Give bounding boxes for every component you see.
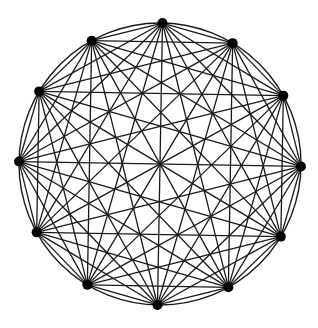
- edge-0-5: [162, 23, 228, 287]
- edge-5-6: [158, 287, 229, 305]
- vertex-9: [14, 157, 24, 167]
- vertex-1: [228, 38, 238, 48]
- complete-graph-diagram: [0, 0, 318, 328]
- vertex-8: [32, 227, 42, 237]
- vertex-0: [157, 18, 167, 28]
- vertex-11: [87, 36, 97, 46]
- vertex-4: [276, 232, 286, 242]
- edge-0-11: [92, 23, 163, 41]
- vertex-7: [82, 280, 92, 290]
- edge-6-11: [92, 41, 158, 305]
- edge-8-9: [19, 162, 37, 233]
- edge-3-8: [37, 166, 301, 232]
- edge-2-9: [19, 96, 283, 162]
- vertex-10: [34, 86, 44, 96]
- vertex-6: [153, 300, 163, 310]
- edges-group: [19, 23, 301, 305]
- edge-7-10: [39, 91, 87, 284]
- vertex-5: [223, 282, 233, 292]
- edge-2-3: [283, 96, 301, 167]
- edge-5-10: [39, 91, 228, 287]
- edge-2-7: [87, 96, 283, 285]
- edge-1-8: [37, 43, 233, 232]
- edge-5-11: [92, 41, 229, 288]
- edge-7-9: [19, 162, 87, 285]
- edge-4-11: [92, 41, 281, 237]
- vertex-3: [296, 161, 306, 171]
- vertex-2: [278, 91, 288, 101]
